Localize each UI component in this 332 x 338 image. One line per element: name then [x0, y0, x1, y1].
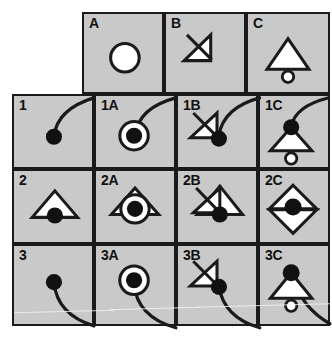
cell-label-2a: 2A	[101, 173, 118, 188]
cell-label-2c: 2C	[265, 173, 282, 188]
cell-2a: 2A	[94, 169, 176, 244]
cell-label-2b: 2B	[183, 173, 200, 188]
cell-label-3: 3	[19, 248, 27, 263]
cell-label-a: A	[89, 16, 99, 31]
cell-label-2: 2	[19, 173, 27, 188]
cell-header-c: C	[246, 12, 330, 94]
cell-label-1a: 1A	[101, 98, 118, 113]
symbol-grid: A B C 1	[0, 0, 332, 338]
cell-1a: 1A	[94, 94, 176, 169]
cell-2b: 2B	[176, 169, 258, 244]
cell-row-2: 2	[12, 169, 94, 244]
cell-row-3: 3	[12, 244, 94, 326]
cell-2c: 2C	[258, 169, 330, 244]
cell-header-b: B	[164, 12, 246, 94]
cell-1b: 1B	[176, 94, 258, 169]
cell-label-1b: 1B	[183, 98, 200, 113]
cell-label-3b: 3B	[183, 248, 200, 263]
cell-label-c: C	[253, 16, 263, 31]
cell-3b: 3B	[176, 244, 258, 326]
cell-label-3c: 3C	[265, 248, 282, 263]
cell-label-3a: 3A	[101, 248, 118, 263]
cell-row-1: 1	[12, 94, 94, 169]
cell-3a: 3A	[94, 244, 176, 326]
cell-1c: 1C	[258, 94, 330, 169]
cell-label-1c: 1C	[265, 98, 282, 113]
cell-label-b: B	[171, 16, 181, 31]
cell-3c: 3C	[258, 244, 330, 326]
cell-header-a: A	[82, 12, 164, 94]
cell-label-1: 1	[19, 98, 27, 113]
